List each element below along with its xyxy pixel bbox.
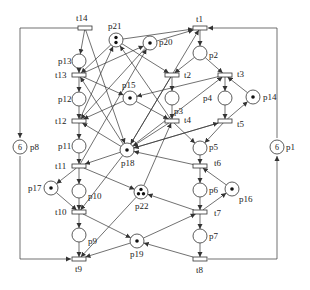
token-dot [139,188,142,191]
place-circle [72,92,86,106]
place-p5[interactable]: p5 [193,141,219,155]
transition-label: t13 [55,70,67,80]
place-label: p8 [30,142,40,152]
transition-label: t9 [75,264,83,274]
place-p10[interactable]: p10 [72,184,102,201]
place-circle [165,91,179,105]
transition-bar [78,26,92,30]
place-p6[interactable]: p6 [193,183,219,197]
place-p21[interactable]: p21 [108,21,123,47]
petri-net-diagram: 6p1p2p3p4p5p6p76p8p9p10p11p12p13p14p15p1… [0,0,310,290]
transition-bar [193,257,207,261]
token-dot [230,187,234,191]
place-label: p19 [130,249,144,259]
transition-t14[interactable]: t14 [76,13,92,30]
place-label: p2 [209,50,218,60]
place-label: p6 [209,185,219,195]
place-p18[interactable]: p18 [120,143,135,168]
transition-t2[interactable]: t2 [165,70,191,80]
token-dot [125,148,129,152]
place-label: p9 [88,236,98,246]
place-label: p12 [58,94,72,104]
place-label: p11 [58,141,71,151]
arc-t8-p19 [144,243,193,257]
transition-t12[interactable]: t12 [55,116,86,126]
place-label: p20 [159,37,173,47]
place-circle [193,229,207,243]
nodes-layer: 6p1p2p3p4p5p6p76p8p9p10p11p12p13p14p15p1… [13,13,295,275]
place-label: p18 [121,158,135,168]
place-label: p3 [174,106,184,116]
place-p11[interactable]: p11 [58,139,86,153]
transition-bar [193,164,207,168]
transition-label: t6 [214,158,222,168]
place-circle [72,184,86,198]
arc-t11-p20 [80,49,146,164]
place-p19[interactable]: p19 [130,234,144,259]
transition-label: t4 [184,115,192,125]
arc-t7-p22 [148,194,194,210]
place-p1[interactable]: 6p1 [270,140,295,154]
place-circle [72,139,86,153]
token-dot [148,41,152,45]
place-label: p5 [209,142,219,152]
token-count: 6 [275,143,279,152]
transition-bar [72,164,86,168]
place-circle [193,46,207,60]
place-label: p17 [28,183,42,193]
place-label: p22 [135,201,149,211]
token-dot [114,41,117,44]
place-p2[interactable]: p2 [193,46,218,60]
place-circle [72,228,86,242]
place-p3[interactable]: p3 [165,91,184,116]
place-p20[interactable]: p20 [143,36,173,50]
place-p17[interactable]: p17 [28,181,58,195]
token-dot [135,239,139,243]
transition-t7[interactable]: t7 [193,208,222,218]
arc-t5-p14 [227,102,247,119]
place-p13[interactable]: p13 [58,54,86,68]
transition-label: t14 [76,13,88,23]
place-p4[interactable]: p4 [203,91,232,105]
place-label: p1 [286,142,295,152]
place-p12[interactable]: p12 [58,92,86,106]
transition-bar [72,257,86,261]
transition-label: t11 [55,161,66,171]
place-label: p15 [122,80,136,90]
transition-t8[interactable]: t8 [193,257,207,275]
place-label: p14 [263,92,277,102]
transition-t9[interactable]: t9 [72,257,86,274]
arc-t11-p22 [84,168,135,189]
place-p8[interactable]: 6p8 [13,140,40,154]
arc-p19-t7 [143,214,195,238]
place-p9[interactable]: p9 [72,228,98,246]
transition-label: t5 [237,119,245,129]
arc-p20-t12 [81,48,145,119]
place-circle [134,185,148,199]
transition-bar [218,119,232,123]
place-p14[interactable]: p14 [246,90,277,104]
arc-t6-p18 [134,151,193,164]
place-circle [109,33,123,47]
transition-bar [218,73,232,77]
place-p22[interactable]: p22 [134,185,149,211]
place-p16[interactable]: p16 [225,182,253,204]
place-label: p13 [58,56,72,66]
place-label: p4 [203,93,213,103]
place-p15[interactable]: p15 [122,80,137,105]
arc-p18-t11 [85,152,120,164]
transition-bar [72,210,86,214]
place-p7[interactable]: p7 [193,229,219,243]
transition-t6[interactable]: t6 [193,158,222,168]
transition-t1[interactable]: t1 [193,14,207,30]
place-circle [72,54,86,68]
transition-label: t8 [196,265,204,275]
transition-bar [165,73,179,77]
token-dot [128,96,132,100]
place-label: p21 [108,21,122,31]
token-dot [251,95,255,99]
arc-t10-p19 [83,214,131,238]
place-circle [218,91,232,105]
transition-bar [72,73,86,77]
place-label: p16 [239,194,253,204]
